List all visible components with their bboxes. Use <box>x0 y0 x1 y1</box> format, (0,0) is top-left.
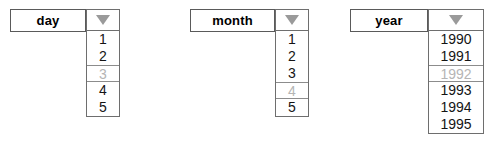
list-item[interactable]: 1 <box>276 31 308 48</box>
combo-label-month[interactable]: month <box>190 9 275 32</box>
list-item[interactable]: 5 <box>87 99 119 116</box>
scroll-down-button-month[interactable] <box>276 10 308 31</box>
combo-year: year 1990 1991 1992 1993 1994 1995 <box>350 0 462 142</box>
combo-day: day 1 2 3 4 5 <box>10 0 130 142</box>
list-item[interactable]: 2 <box>276 48 308 65</box>
list-item[interactable]: 1995 <box>429 116 483 133</box>
scroll-down-button-day[interactable] <box>87 10 119 31</box>
list-item-disabled: 1992 <box>429 65 483 82</box>
triangle-down-icon <box>285 15 299 25</box>
list-item[interactable]: 1990 <box>429 31 483 48</box>
list-item[interactable]: 1993 <box>429 82 483 99</box>
combo-month: month 1 2 3 4 5 <box>190 0 315 142</box>
list-item[interactable]: 4 <box>87 82 119 99</box>
triangle-down-icon <box>96 15 110 25</box>
combo-label-year[interactable]: year <box>350 9 428 32</box>
dropdown-list-year: 1990 1991 1992 1993 1994 1995 <box>428 9 484 134</box>
list-item[interactable]: 2 <box>87 48 119 65</box>
scroll-down-button-year[interactable] <box>429 10 483 31</box>
combo-label-day[interactable]: day <box>10 9 86 32</box>
triangle-down-icon <box>449 15 463 25</box>
list-item-disabled: 4 <box>276 82 308 99</box>
dropdown-list-month: 1 2 3 4 5 <box>275 9 309 117</box>
list-item[interactable]: 1 <box>87 31 119 48</box>
list-item-disabled: 3 <box>87 65 119 82</box>
list-item[interactable]: 1991 <box>429 48 483 65</box>
list-item[interactable]: 1994 <box>429 99 483 116</box>
list-item[interactable]: 3 <box>276 65 308 82</box>
list-item[interactable]: 5 <box>276 99 308 116</box>
dropdown-list-day: 1 2 3 4 5 <box>86 9 120 117</box>
